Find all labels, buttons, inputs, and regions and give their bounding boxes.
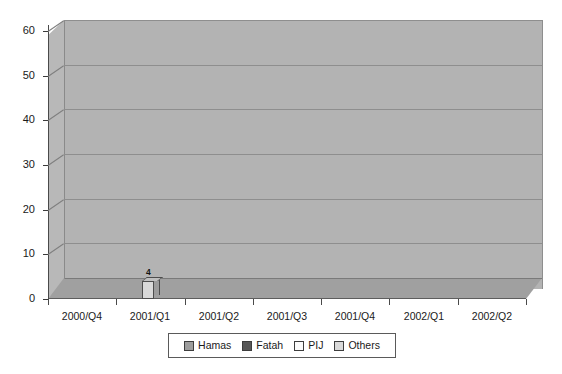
gridline xyxy=(64,199,542,200)
gridline xyxy=(64,243,542,244)
legend-swatch-icon xyxy=(334,341,344,351)
x-axis-tick-mark xyxy=(48,299,49,305)
x-axis-tick-mark xyxy=(321,299,322,305)
gridline xyxy=(64,109,542,110)
plot-area: 427321529135524924318174 xyxy=(48,20,542,299)
y-axis: 0102030405060 xyxy=(0,0,48,374)
y-axis-tick-label: 10 xyxy=(11,248,35,259)
legend-item-hamas: Hamas xyxy=(184,340,231,351)
y-axis-tick-label: 0 xyxy=(11,293,35,304)
legend-swatch-icon xyxy=(242,341,252,351)
x-axis-tick-mark xyxy=(253,299,254,305)
gridline xyxy=(64,20,542,21)
x-axis-tick-label: 2002/Q2 xyxy=(462,310,522,322)
gridline xyxy=(64,65,542,66)
legend-item-pij: PIJ xyxy=(294,340,323,351)
x-axis-tick-label: 2001/Q1 xyxy=(120,310,180,322)
chart-legend: HamasFatahPIJOthers xyxy=(168,333,396,358)
legend-swatch-icon xyxy=(294,341,304,351)
x-axis-tick-label: 2001/Q4 xyxy=(325,310,385,322)
gridline xyxy=(64,154,542,155)
y-axis-line xyxy=(48,25,49,299)
y-axis-tick-label: 60 xyxy=(11,25,35,36)
y-axis-tick-label: 20 xyxy=(11,204,35,215)
x-axis-tick-label: 2000/Q4 xyxy=(52,310,112,322)
legend-label: PIJ xyxy=(308,340,323,351)
legend-item-fatah: Fatah xyxy=(242,340,283,351)
plot-floor xyxy=(48,278,542,299)
legend-label: Hamas xyxy=(198,340,231,351)
x-axis-tick-label: 2002/Q1 xyxy=(394,310,454,322)
legend-label: Fatah xyxy=(256,340,283,351)
legend-item-others: Others xyxy=(334,340,380,351)
x-axis-tick-mark xyxy=(116,299,117,305)
floor-front-edge xyxy=(48,298,526,299)
bar-front-face xyxy=(142,281,154,299)
x-axis-tick-mark xyxy=(185,299,186,305)
x-axis-tick-mark xyxy=(389,299,390,305)
floor-top-edge xyxy=(64,278,542,279)
bar-value-label: 4 xyxy=(146,268,151,277)
legend-label: Others xyxy=(348,340,380,351)
y-axis-tick-label: 30 xyxy=(11,159,35,170)
bar-others-2001-q1: 4 xyxy=(142,281,154,299)
back-wall-left-edge xyxy=(64,20,65,279)
x-axis-tick-label: 2001/Q2 xyxy=(189,310,249,322)
x-axis-tick-label: 2001/Q3 xyxy=(257,310,317,322)
x-axis-tick-mark xyxy=(458,299,459,305)
y-axis-tick-label: 50 xyxy=(11,70,35,81)
legend-swatch-icon xyxy=(184,341,194,351)
y-axis-tick-label: 40 xyxy=(11,114,35,125)
bar-chart: 0102030405060 427321529135524924318174 2… xyxy=(0,0,562,374)
x-axis-tick-mark xyxy=(526,299,527,305)
